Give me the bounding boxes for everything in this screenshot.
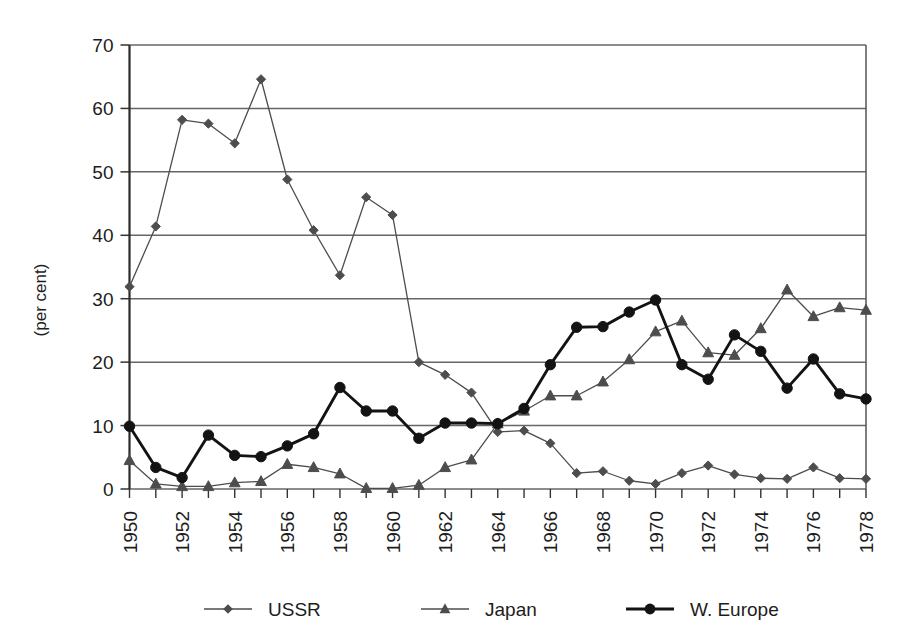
x-axis-tick-label: 1960 bbox=[383, 511, 404, 553]
data-point-marker bbox=[493, 418, 503, 428]
data-point-marker bbox=[125, 282, 134, 291]
data-point-marker bbox=[729, 330, 739, 340]
data-point-marker bbox=[651, 479, 660, 488]
data-point-marker bbox=[361, 483, 372, 493]
data-point-marker bbox=[124, 421, 134, 431]
data-point-marker bbox=[571, 322, 581, 332]
x-axis-labels-group: 1950195219541956195819601962196419661968… bbox=[120, 511, 878, 554]
data-point-marker bbox=[756, 474, 765, 483]
data-point-marker bbox=[441, 370, 450, 379]
data-point-marker bbox=[256, 75, 265, 84]
data-point-marker bbox=[704, 461, 713, 470]
y-axis-title-group: (per cent) bbox=[31, 264, 50, 337]
data-point-marker bbox=[151, 462, 161, 472]
data-point-marker bbox=[178, 115, 187, 124]
data-point-marker bbox=[755, 323, 766, 333]
data-point-marker bbox=[204, 119, 213, 128]
data-point-marker bbox=[177, 472, 187, 482]
data-point-marker bbox=[625, 476, 634, 485]
x-axis-tick-label: 1964 bbox=[488, 511, 509, 554]
data-point-marker bbox=[598, 467, 607, 476]
series-line bbox=[130, 300, 867, 478]
data-point-marker bbox=[388, 210, 397, 219]
data-point-marker bbox=[782, 284, 793, 294]
data-point-marker bbox=[230, 450, 240, 460]
data-point-marker bbox=[283, 175, 292, 184]
data-point-marker bbox=[782, 474, 791, 483]
y-axis-title: (per cent) bbox=[31, 264, 50, 337]
data-point-marker bbox=[282, 459, 293, 469]
data-point-marker bbox=[414, 358, 423, 367]
data-point-marker bbox=[256, 476, 267, 486]
x-axis-tick-label: 1978 bbox=[856, 511, 877, 553]
data-point-marker bbox=[150, 478, 161, 488]
x-axis-ticks-group bbox=[130, 489, 867, 498]
x-axis-tick-label: 1958 bbox=[330, 511, 351, 553]
data-point-marker bbox=[834, 302, 845, 312]
x-axis-tick-label: 1966 bbox=[540, 511, 561, 553]
y-axis-tick-label: 0 bbox=[103, 479, 114, 500]
data-point-marker bbox=[861, 474, 870, 483]
legend-item-w-europe[interactable]: W. Europe bbox=[626, 599, 779, 620]
data-point-marker bbox=[835, 474, 844, 483]
data-point-marker bbox=[835, 389, 845, 399]
x-axis-tick-label: 1972 bbox=[698, 511, 719, 553]
data-point-marker bbox=[124, 455, 135, 465]
data-point-marker bbox=[203, 430, 213, 440]
y-axis-tick-label: 10 bbox=[92, 416, 113, 437]
chart-container: 010203040506070 (per cent) 1950195219541… bbox=[0, 0, 908, 633]
data-point-marker bbox=[413, 479, 424, 489]
data-point-marker bbox=[256, 451, 266, 461]
x-axis-tick-label: 1976 bbox=[803, 511, 824, 553]
legend-item-ussr[interactable]: USSR bbox=[204, 599, 321, 620]
legend-label: W. Europe bbox=[690, 599, 779, 620]
data-point-marker bbox=[756, 346, 766, 356]
series-w-europe bbox=[124, 295, 871, 483]
x-axis-tick-label: 1954 bbox=[225, 511, 246, 554]
legend-label: Japan bbox=[485, 599, 537, 620]
x-axis-tick-label: 1962 bbox=[435, 511, 456, 553]
y-axis-tick-label: 20 bbox=[92, 352, 113, 373]
legend-marker-triangle-icon bbox=[440, 603, 451, 613]
data-point-marker bbox=[650, 326, 661, 336]
data-point-marker bbox=[387, 406, 397, 416]
series-line bbox=[130, 290, 867, 489]
chart-legend: USSRJapanW. Europe bbox=[204, 599, 779, 620]
legend-item-japan[interactable]: Japan bbox=[421, 599, 537, 620]
data-point-marker bbox=[519, 403, 529, 413]
y-axis-tick-label: 70 bbox=[92, 35, 113, 56]
data-point-marker bbox=[782, 383, 792, 393]
y-axis-ticks-group: 010203040506070 bbox=[92, 35, 129, 500]
line-chart: 010203040506070 (per cent) 1950195219541… bbox=[0, 0, 908, 633]
y-axis-tick-label: 50 bbox=[92, 162, 113, 183]
data-point-marker bbox=[335, 382, 345, 392]
data-point-marker bbox=[467, 388, 476, 397]
data-point-marker bbox=[730, 470, 739, 479]
y-axis-tick-label: 30 bbox=[92, 289, 113, 310]
data-point-marker bbox=[151, 222, 160, 231]
y-axis-tick-label: 60 bbox=[92, 98, 113, 119]
data-point-marker bbox=[440, 418, 450, 428]
data-point-marker bbox=[545, 359, 555, 369]
data-point-marker bbox=[361, 406, 371, 416]
data-point-marker bbox=[335, 271, 344, 280]
data-point-marker bbox=[519, 426, 528, 435]
data-point-marker bbox=[677, 469, 686, 478]
x-axis-tick-label: 1970 bbox=[646, 511, 667, 553]
legend-marker-circle-icon bbox=[645, 604, 656, 615]
data-point-marker bbox=[308, 429, 318, 439]
data-point-marker bbox=[861, 394, 871, 404]
legend-label: USSR bbox=[268, 599, 321, 620]
data-point-marker bbox=[571, 390, 582, 400]
data-series-group bbox=[124, 75, 871, 493]
data-point-marker bbox=[598, 321, 608, 331]
data-point-marker bbox=[677, 359, 687, 369]
data-point-marker bbox=[309, 226, 318, 235]
x-axis-tick-label: 1952 bbox=[172, 511, 193, 553]
x-axis-tick-label: 1950 bbox=[120, 511, 141, 553]
series-japan bbox=[124, 284, 871, 492]
data-point-marker bbox=[676, 315, 687, 325]
x-axis-tick-label: 1974 bbox=[751, 511, 772, 554]
data-point-marker bbox=[808, 354, 818, 364]
data-point-marker bbox=[466, 418, 476, 428]
